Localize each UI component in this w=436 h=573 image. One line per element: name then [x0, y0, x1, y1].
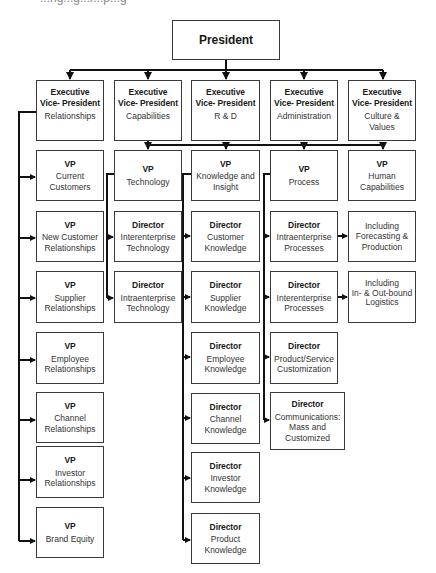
- box-dept: Interenterprise Technology: [121, 232, 176, 253]
- box-dept: Investor Relationships: [44, 468, 95, 489]
- box-dept: Supplier Relationships: [44, 293, 95, 314]
- evp-capabilities-box: Executive Vice- President Capabilities: [114, 80, 182, 141]
- box-dept: Employee Knowledge: [204, 354, 246, 375]
- box-dept: Employee Relationships: [44, 354, 95, 375]
- director-customer-knowledge-box: Director Customer Knowledge: [191, 211, 260, 262]
- box-role: VP: [142, 164, 153, 175]
- box-dept: Relationships: [44, 111, 95, 122]
- box-dept: Administration: [277, 111, 331, 122]
- box-role: VP: [64, 280, 75, 291]
- box-role: Director: [288, 220, 320, 231]
- box-role: Director: [210, 341, 242, 352]
- box-role: VP: [64, 521, 75, 532]
- box-role: Director: [132, 220, 164, 231]
- vp-investor-relationships-box: VP Investor Relationships: [36, 446, 104, 498]
- box-role: Executive Vice- President: [118, 87, 178, 108]
- box-role: VP: [64, 220, 75, 231]
- box-role: Director: [132, 280, 164, 291]
- box-role: Director: [292, 399, 324, 410]
- box-role: Director: [288, 341, 320, 352]
- vp-employee-relationships-box: VP Employee Relationships: [36, 332, 104, 384]
- org-chart: ...ng...g...r...p...g: [0, 0, 436, 573]
- box-role: VP: [220, 159, 231, 170]
- director-investor-knowledge-box: Director Investor Knowledge: [191, 452, 260, 503]
- vp-channel-relationships-box: VP Channel Relationships: [36, 392, 104, 443]
- director-product-service-customization-box: Director Product/Service Customization: [270, 332, 338, 384]
- box-role: Director: [210, 522, 242, 533]
- director-employee-knowledge-box: Director Employee Knowledge: [191, 332, 260, 384]
- box-role: Director: [210, 220, 242, 231]
- box-dept: Including Forecasting & Production: [356, 221, 408, 253]
- box-role: VP: [64, 341, 75, 352]
- box-dept: Process: [289, 177, 320, 188]
- evp-administration-box: Executive Vice- President Administration: [270, 80, 338, 141]
- box-dept: Customer Knowledge: [204, 232, 246, 253]
- box-dept: Investor Knowledge: [204, 473, 246, 494]
- box-dept: Culture & Values: [364, 111, 399, 132]
- vp-current-customers-box: VP Current Customers: [36, 150, 104, 201]
- box-dept: R & D: [214, 111, 237, 122]
- director-intraenterprise-technology-box: Director Intraenterprise Technology: [114, 271, 182, 323]
- box-dept: Knowledge and Insight: [196, 171, 255, 192]
- box-dept: Product/Service Customization: [274, 354, 334, 375]
- director-interenterprise-technology-box: Director Interenterprise Technology: [114, 211, 182, 262]
- evp-culture-values-box: Executive Vice- President Culture & Valu…: [348, 80, 416, 141]
- director-channel-knowledge-box: Director Channel Knowledge: [191, 393, 260, 444]
- director-communications-box: Director Communications: Mass and Custom…: [270, 392, 345, 450]
- box-dept: Channel Relationships: [44, 413, 95, 434]
- box-dept: Product Knowledge: [204, 534, 246, 555]
- director-product-knowledge-box: Director Product Knowledge: [191, 513, 260, 564]
- evp-relationships-box: Executive Vice- President Relationships: [36, 80, 104, 141]
- logistics-box: Including In- & Out-bound Logistics: [348, 271, 416, 323]
- box-dept: Communications: Mass and Customized: [275, 412, 341, 444]
- box-role: Director: [210, 280, 242, 291]
- box-role: President: [199, 35, 253, 46]
- box-dept: Interenterprise Processes: [277, 293, 332, 314]
- vp-supplier-relationships-box: VP Supplier Relationships: [36, 271, 104, 323]
- director-intraenterprise-processes-box: Director Intraenterprise Processes: [270, 211, 338, 262]
- box-role: Executive Vice- President: [352, 87, 412, 108]
- box-role: VP: [64, 159, 75, 170]
- box-role: VP: [64, 455, 75, 466]
- evp-rnd-box: Executive Vice- President R & D: [191, 80, 260, 141]
- box-role: Executive Vice- President: [40, 87, 100, 108]
- box-role: VP: [298, 164, 309, 175]
- box-dept: Intraenterprise Technology: [121, 293, 176, 314]
- box-dept: Brand Equity: [46, 534, 95, 545]
- president-box: President: [172, 20, 280, 60]
- vp-new-customer-relationships-box: VP New Customer Relationships: [36, 211, 104, 262]
- vp-technology-box: VP Technology: [114, 150, 182, 201]
- box-dept: Current Customers: [49, 171, 90, 192]
- vp-brand-equity-box: VP Brand Equity: [36, 507, 104, 558]
- vp-process-box: VP Process: [270, 150, 338, 201]
- box-dept: Capabilities: [126, 111, 170, 122]
- forecasting-production-box: Including Forecasting & Production: [348, 211, 416, 262]
- box-dept: Channel Knowledge: [204, 414, 246, 435]
- box-dept: New Customer Relationships: [42, 232, 98, 253]
- box-role: Director: [288, 280, 320, 291]
- box-role: Director: [210, 461, 242, 472]
- director-supplier-knowledge-box: Director Supplier Knowledge: [191, 271, 260, 323]
- vp-knowledge-insight-box: VP Knowledge and Insight: [191, 150, 260, 201]
- box-role: VP: [64, 401, 75, 412]
- director-interenterprise-processes-box: Director Interenterprise Processes: [270, 271, 338, 323]
- box-role: Director: [210, 402, 242, 413]
- box-dept: Including In- & Out-bound Logistics: [352, 279, 412, 308]
- box-dept: Technology: [126, 177, 169, 188]
- box-role: Executive Vice- President: [274, 87, 334, 108]
- box-dept: Supplier Knowledge: [204, 293, 246, 314]
- vp-human-capabilities-box: VP Human Capabilities: [348, 150, 416, 201]
- box-role: Executive Vice- President: [196, 87, 256, 108]
- box-dept: Intraenterprise Processes: [277, 232, 332, 253]
- box-role: VP: [376, 159, 387, 170]
- box-dept: Human Capabilities: [360, 171, 404, 192]
